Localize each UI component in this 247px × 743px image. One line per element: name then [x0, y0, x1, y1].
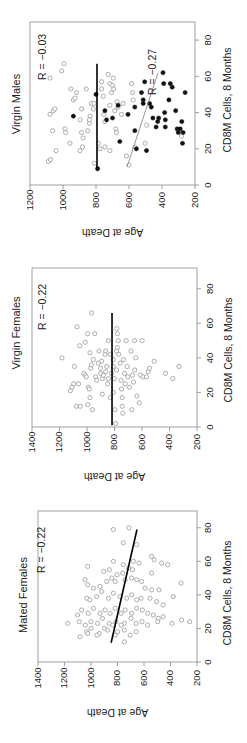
y-axis-title: Age at Death — [87, 707, 148, 719]
data-point-open — [112, 87, 116, 91]
data-point-open — [86, 129, 90, 133]
data-point-open — [123, 382, 127, 386]
data-point-open — [130, 576, 134, 580]
data-point-open — [72, 382, 76, 386]
age-tick-label: 800 — [90, 192, 101, 208]
data-point-open — [103, 608, 107, 612]
data-point-open — [100, 80, 104, 84]
data-point-open — [145, 123, 149, 127]
data-point-open — [115, 368, 119, 372]
data-point-open — [148, 596, 152, 600]
data-point-filled — [134, 147, 138, 151]
data-point-open — [130, 82, 134, 86]
data-point-open — [100, 359, 104, 363]
correlation-label: R = −0.27 — [146, 49, 158, 95]
data-point-open — [80, 130, 84, 134]
data-point-open — [127, 526, 131, 530]
data-point-filled — [133, 129, 137, 133]
data-point-filled — [110, 116, 114, 120]
cd8m-tick-label: 60 — [202, 71, 213, 82]
data-point-open — [90, 408, 94, 412]
data-point-filled — [105, 118, 109, 122]
data-point-open — [171, 377, 175, 381]
data-point-open — [156, 620, 160, 624]
age-tick-label: 600 — [138, 670, 149, 686]
cd8m-tick-label: 60 — [204, 318, 215, 329]
data-point-open — [92, 161, 96, 165]
data-point-open — [107, 568, 111, 572]
data-point-open — [152, 558, 156, 562]
panel-title: Mated Females — [17, 557, 29, 633]
data-point-open — [97, 349, 101, 353]
correlation-label: R = −0.03 — [36, 34, 48, 80]
data-point-filled — [154, 125, 158, 129]
data-point-open — [111, 76, 115, 80]
cd8m-tick-label: 0 — [202, 182, 213, 187]
data-point-open — [125, 364, 129, 368]
data-point-open — [108, 103, 112, 107]
data-point-open — [60, 69, 64, 73]
data-point-open — [113, 606, 117, 610]
cd8m-tick-label: 80 — [204, 283, 215, 294]
x-axis-title: CD8M Cells, 8 Months — [221, 47, 233, 152]
data-point-open — [144, 375, 148, 379]
data-point-open — [115, 573, 119, 577]
age-tick-label: 800 — [111, 670, 122, 686]
data-point-open — [64, 130, 68, 134]
data-point-open — [122, 640, 126, 644]
data-point-open — [135, 578, 139, 582]
data-point-open — [120, 404, 124, 408]
data-point-filled — [183, 91, 187, 95]
data-point-open — [76, 613, 80, 617]
data-point-open — [78, 344, 82, 348]
data-point-open — [151, 613, 155, 617]
data-point-open — [113, 579, 117, 583]
correlation-label: R = −0.22 — [36, 284, 48, 330]
data-point-open — [93, 332, 97, 336]
data-point-open — [134, 621, 138, 625]
data-point-open — [95, 378, 99, 382]
data-point-open — [130, 611, 134, 615]
data-point-filled — [181, 130, 185, 134]
age-tick-label: 1200 — [58, 667, 69, 688]
data-point-filled — [144, 149, 148, 153]
data-point-open — [180, 618, 184, 622]
data-point-open — [160, 561, 164, 565]
age-tick-label: 600 — [123, 192, 134, 208]
data-point-open — [111, 559, 115, 563]
cd8m-tick-label: 80 — [202, 35, 213, 46]
data-point-open — [126, 375, 130, 379]
data-point-open — [100, 589, 104, 593]
data-point-open — [84, 375, 88, 379]
cd8m-tick-label: 60 — [202, 556, 213, 567]
y-axis-title: Age at Death — [82, 227, 143, 239]
data-point-open — [84, 87, 88, 91]
data-point-filled — [162, 82, 166, 86]
data-point-filled — [133, 105, 137, 109]
data-point-open — [135, 598, 139, 602]
data-point-open — [96, 621, 100, 625]
data-point-open — [74, 91, 78, 95]
data-point-open — [115, 345, 119, 349]
age-tick-label: 1400 — [32, 667, 43, 688]
data-point-open — [122, 371, 126, 375]
data-point-open — [134, 630, 138, 634]
data-point-open — [105, 364, 109, 368]
panel-mated-females: Mated Females140012001000800600400200020… — [17, 511, 233, 719]
data-point-open — [78, 635, 82, 639]
data-point-open — [128, 633, 132, 637]
age-tick-label: 400 — [156, 192, 167, 208]
data-point-open — [86, 402, 90, 406]
cd8m-tick-label: 0 — [202, 659, 213, 664]
data-point-open — [89, 620, 93, 624]
data-point-open — [121, 101, 125, 105]
panel-title: Virgin Males — [10, 73, 22, 134]
cd8m-tick-label: 80 — [202, 522, 213, 533]
data-point-open — [137, 401, 141, 405]
data-point-filled — [157, 116, 161, 120]
data-point-open — [131, 380, 135, 384]
cd8m-tick-label: 20 — [202, 623, 213, 634]
data-point-open — [68, 141, 72, 145]
age-tick-label: 1000 — [81, 431, 92, 452]
data-point-filled — [178, 127, 182, 131]
